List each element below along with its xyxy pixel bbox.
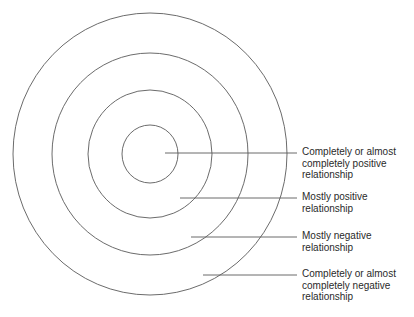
label-line: relationship [302,242,371,254]
label-line: relationship [302,291,396,303]
label-line: completely positive [302,158,396,170]
label-completely-positive: Completely or almost completely positive… [302,146,396,181]
ring-third [52,53,248,255]
ring-second [88,90,212,218]
ring-inner [122,125,178,183]
label-completely-negative: Completely or almost completely negative… [302,268,396,303]
ring-outer [13,13,287,295]
label-line: Completely or almost [302,146,396,158]
label-mostly-negative: Mostly negative relationship [302,230,371,253]
label-mostly-positive: Mostly positive relationship [302,191,368,214]
label-line: relationship [302,169,396,181]
label-line: relationship [302,203,368,215]
label-line: Mostly negative [302,230,371,242]
label-line: completely negative [302,280,396,292]
label-line: Completely or almost [302,268,396,280]
label-line: Mostly positive [302,191,368,203]
